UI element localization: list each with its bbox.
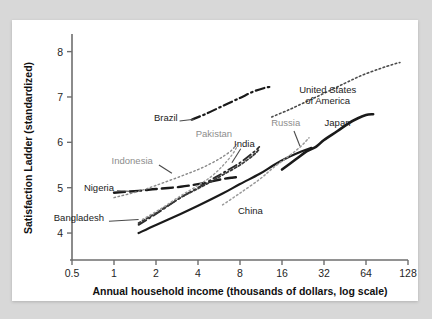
leader-line-india (232, 149, 241, 163)
series-label-russia: Russia (271, 117, 301, 128)
series-label-china: China (238, 205, 264, 216)
x-tick-label: 8 (237, 267, 243, 279)
series-label-indonesia: Indonesia (112, 155, 154, 166)
x-axis-title: Annual household income (thousands of do… (92, 285, 387, 297)
x-tick-label: 64 (360, 267, 372, 279)
series-line-china (139, 148, 312, 233)
leader-line-indonesia (159, 165, 172, 173)
series-label-japan: Japan (325, 117, 351, 128)
x-tick-label: 4 (195, 267, 201, 279)
y-tick-label: 7 (57, 91, 63, 103)
x-tick-label: 2 (153, 267, 159, 279)
y-tick-label: 4 (57, 227, 63, 239)
series-line-pakistan (142, 147, 236, 220)
series-label-india: India (234, 138, 255, 149)
y-tick-label: 6 (57, 136, 63, 148)
y-axis-title: Satisfaction Ladder (standardized) (22, 62, 34, 234)
x-tick-label: 16 (276, 267, 288, 279)
series-label-pakistan: Pakistan (196, 128, 232, 139)
leader-line-russia (294, 131, 300, 146)
x-tick-label: 0.5 (65, 267, 80, 279)
satisfaction-ladder-chart: 456780.51248163264128 JapanChinaNigeriaI… (12, 20, 418, 301)
chart-card: 456780.51248163264128 JapanChinaNigeriaI… (12, 20, 418, 301)
series-label-united-states-of-america: United States (299, 84, 356, 95)
x-tick-label: 1 (111, 267, 117, 279)
series-label-brazil: Brazil (154, 112, 178, 123)
series-line-brazil (192, 87, 270, 120)
x-tick-label: 32 (318, 267, 330, 279)
x-tick-label: 128 (399, 267, 417, 279)
y-tick-label: 5 (57, 182, 63, 194)
y-tick-label: 8 (57, 46, 63, 58)
series-label-united-states-of-america: of America (305, 95, 351, 106)
series-label-nigeria: Nigeria (84, 182, 115, 193)
leader-line-bangladesh (109, 219, 139, 221)
series-label-bangladesh: Bangladesh (54, 212, 104, 223)
screenshot-root: 456780.51248163264128 JapanChinaNigeriaI… (0, 0, 432, 319)
series-line-nigeria (114, 177, 240, 193)
